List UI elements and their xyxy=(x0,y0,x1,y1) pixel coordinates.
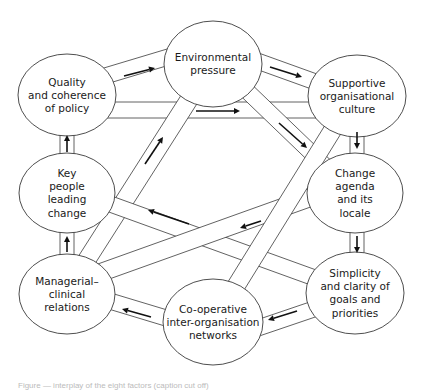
node-label: and coherence xyxy=(28,89,106,101)
node-label: inter-organisation xyxy=(166,316,259,328)
node-label: culture xyxy=(339,103,376,115)
node-label: clinical xyxy=(49,288,85,300)
node-label: and its xyxy=(337,193,373,205)
node-label: people xyxy=(49,180,85,192)
node-label: change xyxy=(48,207,87,219)
node-label: Supportive xyxy=(328,77,385,89)
node-label: priorities xyxy=(332,307,379,319)
node-label: leading xyxy=(48,193,87,205)
node-label: Co-operative xyxy=(179,303,247,315)
node-label: agenda xyxy=(335,180,374,192)
node-label: Environmental xyxy=(175,51,251,63)
node-environmental: Environmentalpressure xyxy=(164,21,262,107)
node-managerial: Managerial–clinicalrelations xyxy=(19,254,115,334)
node-label: Key xyxy=(57,167,76,179)
node-label: goals and xyxy=(329,293,380,305)
factor-nodes: EnvironmentalpressureQualityand coherenc… xyxy=(18,21,406,365)
node-label: Managerial– xyxy=(35,275,99,287)
node-supportive: Supportiveorganisationalculture xyxy=(308,55,406,137)
node-label: and clarity of xyxy=(320,280,390,292)
node-keypeople: Keypeopleleadingchange xyxy=(19,153,115,233)
node-label: locale xyxy=(340,207,371,219)
node-label: relations xyxy=(44,301,89,313)
node-cooperative: Co-operativeinter-organisationnetworks xyxy=(163,279,263,365)
node-label: pressure xyxy=(190,64,235,76)
figure-caption: Figure — interplay of the eight factors … xyxy=(18,381,209,390)
node-simplicity: Simplicityand clarity ofgoals andpriorit… xyxy=(306,252,404,334)
node-label: Change xyxy=(335,167,375,179)
node-label: networks xyxy=(189,329,237,341)
node-label: Simplicity xyxy=(329,267,380,279)
node-quality: Qualityand coherenceof policy xyxy=(18,54,116,136)
node-changeagenda: Changeagendaand itslocale xyxy=(307,153,403,233)
node-label: Quality xyxy=(48,76,86,88)
node-label: organisational xyxy=(320,90,395,102)
node-label: of policy xyxy=(45,102,89,114)
